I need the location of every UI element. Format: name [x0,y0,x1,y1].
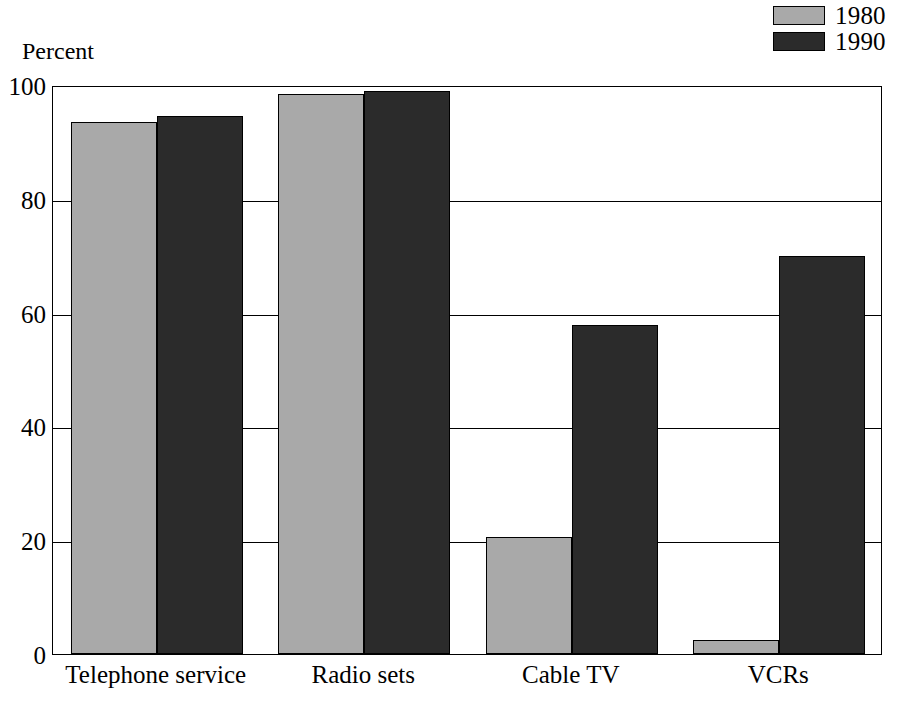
legend-swatch-1990-icon [773,32,825,51]
bar-group-4 [676,87,884,654]
y-tick-label-60: 60 [2,301,46,326]
y-axis-title: Percent [22,38,94,64]
y-axis-tick-labels: 020406080100 [0,86,46,655]
bar-cable-tv-1990 [572,325,658,654]
x-tick-label-4: VCRs [748,660,809,690]
bar-group-3 [468,87,676,654]
y-tick-label-80: 80 [2,187,46,212]
y-tick-label-0: 0 [2,643,46,668]
x-tick-label-3: Cable TV [522,660,619,690]
x-tick-label-2: Radio sets [312,660,415,690]
y-tick-label-20: 20 [2,529,46,554]
y-tick-label-100: 100 [2,74,46,99]
x-tick-label-1: Telephone service [65,660,246,690]
x-axis-tick-labels: Telephone serviceRadio setsCable TVVCRs [52,660,882,700]
bar-vcrs-1980 [693,640,779,654]
chart-legend: 1980 1990 [773,4,903,56]
legend-item-1980: 1980 [773,4,903,26]
bar-vcrs-1990 [779,256,865,654]
bar-group-1 [53,87,261,654]
legend-label-1980: 1980 [835,3,886,28]
legend-item-1990: 1990 [773,30,903,52]
bar-cable-tv-1980 [486,537,572,654]
plot-area [52,86,882,655]
plot-inner [53,87,881,654]
legend-swatch-1980-icon [773,6,825,25]
legend-label-1990: 1990 [835,29,886,54]
bar-telephone-service-1990 [157,116,243,654]
bar-telephone-service-1980 [71,122,157,654]
y-tick-label-40: 40 [2,415,46,440]
bar-group-2 [261,87,469,654]
bar-radio-sets-1990 [364,91,450,654]
bar-radio-sets-1980 [278,94,364,654]
